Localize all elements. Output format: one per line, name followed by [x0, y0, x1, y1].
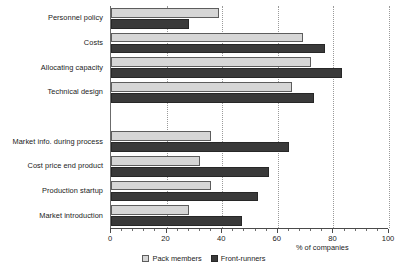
bar-front-runners [111, 192, 258, 202]
x-minor-tick-44 [232, 229, 233, 231]
x-minor-tick-48 [243, 229, 244, 231]
x-tick-label-100: 100 [382, 234, 395, 243]
plot-area [110, 6, 389, 228]
x-tick-20 [166, 229, 167, 233]
bar-pack-members [111, 156, 200, 166]
bar-pack-members [111, 57, 311, 67]
x-minor-tick-72 [310, 229, 311, 231]
bar-front-runners [111, 216, 242, 226]
x-tick-0 [110, 229, 111, 233]
x-minor-tick-32 [199, 229, 200, 231]
gridline-100 [389, 6, 390, 228]
bar-group [111, 203, 389, 228]
category-label: Production startup [42, 187, 103, 194]
bar-front-runners [111, 167, 269, 177]
bar-pack-members [111, 33, 303, 43]
bar-group [111, 55, 389, 80]
x-minor-tick-96 [377, 229, 378, 231]
x-minor-tick-64 [288, 229, 289, 231]
category-label: Market introduction [39, 212, 103, 219]
category-label: Market info. during process [13, 138, 104, 145]
x-minor-tick-24 [177, 229, 178, 231]
bar-pack-members [111, 8, 219, 18]
legend-item[interactable]: Front-runners [211, 254, 266, 263]
x-minor-tick-16 [154, 229, 155, 231]
x-tick-label-20: 20 [161, 234, 169, 243]
x-minor-tick-56 [266, 229, 267, 231]
x-tick-80 [332, 229, 333, 233]
x-tick-label-60: 60 [273, 234, 281, 243]
bar-front-runners [111, 93, 314, 103]
x-tick-40 [221, 229, 222, 233]
category-label: Personnel policy [48, 14, 103, 21]
x-minor-tick-84 [344, 229, 345, 231]
x-minor-tick-4 [121, 229, 122, 231]
x-tick-label-0: 0 [108, 234, 112, 243]
x-minor-tick-28 [188, 229, 189, 231]
x-minor-tick-8 [132, 229, 133, 231]
x-tick-label-80: 80 [328, 234, 336, 243]
category-label-column: Personnel policyCostsAllocating capacity… [0, 6, 108, 228]
x-tick-60 [277, 229, 278, 233]
x-minor-tick-88 [355, 229, 356, 231]
x-minor-tick-12 [143, 229, 144, 231]
bar-group [111, 31, 389, 56]
x-axis [110, 228, 388, 229]
category-label: Costs [84, 39, 103, 46]
x-tick-label-40: 40 [217, 234, 225, 243]
bar-pack-members [111, 131, 211, 141]
legend-label: Pack members [152, 254, 201, 263]
legend-label: Front-runners [221, 254, 266, 263]
category-label: Cost price end product [28, 162, 103, 169]
legend-swatch-dark [211, 255, 218, 262]
bar-pack-members [111, 82, 292, 92]
x-minor-tick-68 [299, 229, 300, 231]
bar-front-runners [111, 19, 189, 29]
bar-front-runners [111, 68, 342, 78]
bar-pack-members [111, 205, 189, 215]
category-label: Allocating capacity [41, 64, 103, 71]
bar-group [111, 179, 389, 204]
bar-group [111, 80, 389, 105]
category-label: Technical design [48, 88, 103, 95]
horizontal-bar-chart: Personnel policyCostsAllocating capacity… [0, 0, 408, 269]
x-axis-title: % of companies [296, 243, 349, 252]
bar-group [111, 154, 389, 179]
x-tick-100 [388, 229, 389, 233]
x-minor-tick-76 [321, 229, 322, 231]
x-minor-tick-36 [210, 229, 211, 231]
x-minor-tick-52 [255, 229, 256, 231]
bar-front-runners [111, 44, 325, 54]
bar-group [111, 6, 389, 31]
bar-front-runners [111, 142, 289, 152]
legend-swatch-light [142, 255, 149, 262]
x-minor-tick-92 [366, 229, 367, 231]
bar-group [111, 129, 389, 154]
legend: Pack membersFront-runners [0, 254, 408, 263]
legend-item[interactable]: Pack members [142, 254, 201, 263]
bar-pack-members [111, 181, 211, 191]
